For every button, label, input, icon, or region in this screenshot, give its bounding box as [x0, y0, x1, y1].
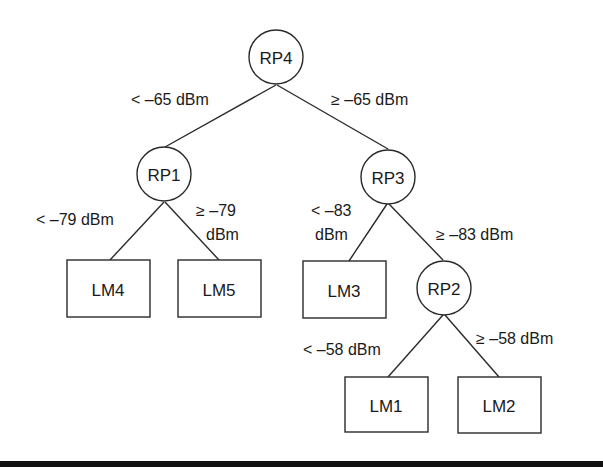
node-rp2: RP2 — [417, 261, 471, 315]
node-lm2-label: LM2 — [482, 397, 515, 416]
bottom-border-bar — [0, 461, 603, 467]
node-rp4: RP4 — [249, 30, 303, 84]
edge-label-rp2-lm2: ≥ –58 dBm — [476, 330, 553, 347]
node-lm2: LM2 — [458, 377, 541, 433]
node-rp1-label: RP1 — [147, 166, 180, 185]
edge-rp3-rp2 — [389, 204, 443, 260]
edge-label-rp3-lm3-line1: < –83 — [311, 202, 352, 219]
node-rp1: RP1 — [137, 147, 191, 201]
edge-label-rp1-lm4: < –79 dBm — [36, 211, 114, 228]
node-rp3: RP3 — [361, 150, 415, 204]
node-lm5-label: LM5 — [202, 281, 235, 300]
edge-rp2-lm1 — [388, 315, 443, 377]
node-lm1-label: LM1 — [369, 397, 402, 416]
node-lm3-label: LM3 — [327, 282, 360, 301]
node-lm3: LM3 — [303, 261, 386, 318]
edge-label-rp4-rp3: ≥ –65 dBm — [331, 91, 408, 108]
edge-rp3-lm3 — [349, 204, 387, 261]
node-rp2-label: RP2 — [427, 280, 460, 299]
edge-label-rp3-rp2: ≥ –83 dBm — [436, 226, 513, 243]
node-lm1: LM1 — [345, 377, 428, 432]
edge-label-rp1-lm5-line1: ≥ –79 — [196, 202, 236, 219]
decision-tree-diagram: RP4 RP1 RP3 RP2 LM4 LM5 LM3 LM1 LM2 < –6… — [0, 0, 603, 467]
edge-label-rp4-rp1: < –65 dBm — [131, 91, 209, 108]
node-lm4-label: LM4 — [91, 281, 124, 300]
node-lm4: LM4 — [67, 260, 150, 317]
node-rp3-label: RP3 — [371, 169, 404, 188]
node-lm5: LM5 — [178, 260, 261, 317]
node-rp4-label: RP4 — [259, 49, 292, 68]
edge-label-rp2-lm1: < –58 dBm — [303, 341, 381, 358]
edge-label-rp3-lm3-line2: dBm — [315, 226, 348, 243]
edge-label-rp1-lm5-line2: dBm — [206, 226, 239, 243]
edge-rp1-lm4 — [110, 202, 164, 260]
